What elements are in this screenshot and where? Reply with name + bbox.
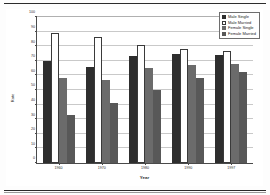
- bar[interactable]: [231, 64, 239, 163]
- page-rule-top: [4, 3, 266, 4]
- x-axis-tick-mark: [59, 163, 60, 165]
- legend-swatch-icon: [222, 21, 226, 25]
- x-axis-tick-mark: [102, 163, 103, 165]
- x-axis-tick-label: 1990: [184, 167, 192, 171]
- y-axis-tick-label: 20: [31, 128, 35, 132]
- y-axis-tick-label: 0: [33, 158, 35, 162]
- legend-swatch-icon: [222, 26, 226, 30]
- legend-label: Female Married: [228, 32, 256, 36]
- x-axis-tick-mark: [231, 163, 232, 165]
- bar[interactable]: [94, 37, 102, 163]
- bar[interactable]: [43, 61, 51, 163]
- x-axis-title: Year: [36, 175, 253, 180]
- bar[interactable]: [137, 45, 145, 163]
- y-axis-tick-label: 60: [31, 70, 35, 74]
- bar[interactable]: [145, 68, 153, 163]
- legend-label: Female Single: [228, 26, 254, 30]
- legend-item[interactable]: Female Single: [222, 26, 256, 30]
- x-axis-tick-mark: [188, 163, 189, 165]
- legend-label: Male Married: [228, 21, 251, 25]
- bar-group: 1990: [172, 17, 204, 163]
- chart-legend: Male SingleMale MarriedFemale SingleFema…: [219, 12, 260, 39]
- x-axis-tick-label: 1980: [141, 167, 149, 171]
- x-axis-tick-label: 1970: [98, 167, 106, 171]
- y-axis-title: Rate: [10, 93, 15, 101]
- bar[interactable]: [188, 65, 196, 163]
- legend-swatch-icon: [222, 15, 226, 19]
- page-rule-bottom: [4, 190, 266, 191]
- bar[interactable]: [223, 51, 231, 163]
- y-axis-tick-label: 30: [31, 114, 35, 118]
- bar[interactable]: [51, 33, 59, 163]
- bar-group: 1980: [129, 17, 161, 163]
- bar[interactable]: [196, 78, 204, 163]
- bar[interactable]: [59, 78, 67, 163]
- bar[interactable]: [86, 67, 94, 163]
- y-axis-tick-label: 40: [31, 99, 35, 103]
- page-rule-bottom-secondary: [4, 192, 266, 193]
- bar-group: 1970: [86, 17, 118, 163]
- chart-figure: Rate 0102030405060708090100 196019701980…: [6, 9, 263, 186]
- bar[interactable]: [215, 55, 223, 163]
- bar[interactable]: [153, 90, 161, 163]
- bar-groups: 19601970198019901997: [37, 17, 253, 163]
- y-axis-tick-label: 10: [31, 143, 35, 147]
- x-axis-tick-label: 1960: [55, 167, 63, 171]
- x-axis-tick-label: 1997: [227, 167, 235, 171]
- bar-group: 1960: [43, 17, 75, 163]
- bar[interactable]: [102, 80, 110, 163]
- plot-area: 0102030405060708090100 19601970198019901…: [36, 17, 253, 164]
- bar-group: 1997: [215, 17, 247, 163]
- bar[interactable]: [110, 103, 118, 163]
- bar[interactable]: [239, 72, 247, 163]
- legend-item[interactable]: Male Single: [222, 15, 256, 19]
- y-axis-tick-label: 90: [31, 26, 35, 30]
- y-axis-tick-label: 50: [31, 85, 35, 89]
- chart-page: Rate 0102030405060708090100 196019701980…: [0, 0, 270, 195]
- y-axis-tick-label: 70: [31, 55, 35, 59]
- y-axis-tick-label: 100: [29, 12, 35, 16]
- legend-label: Male Single: [228, 15, 249, 19]
- bar[interactable]: [180, 49, 188, 163]
- bar[interactable]: [129, 56, 137, 163]
- legend-item[interactable]: Female Married: [222, 32, 256, 36]
- x-axis-tick-mark: [145, 163, 146, 165]
- legend-swatch-icon: [222, 32, 226, 36]
- bar[interactable]: [67, 115, 75, 163]
- y-axis-tick-label: 80: [31, 41, 35, 45]
- bar[interactable]: [172, 54, 180, 164]
- legend-item[interactable]: Male Married: [222, 21, 256, 25]
